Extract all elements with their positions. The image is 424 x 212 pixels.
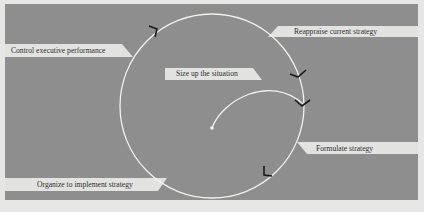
label-control-executive-performance: Control executive performance — [11, 44, 105, 57]
spiral-entry — [212, 91, 303, 128]
label-reappraise-current-strategy: Reappraise current strategy — [294, 25, 377, 38]
start-point — [210, 126, 214, 130]
arrow-icon-bottom — [264, 166, 272, 176]
cycle-loop — [120, 14, 304, 198]
label-organize-to-implement-strategy: Organize to implement strategy — [37, 178, 133, 191]
cycle-loop-closing — [212, 106, 304, 198]
label-formulate-strategy: Formulate strategy — [316, 142, 373, 155]
label-size-up-situation: Size up the situation — [176, 67, 238, 80]
